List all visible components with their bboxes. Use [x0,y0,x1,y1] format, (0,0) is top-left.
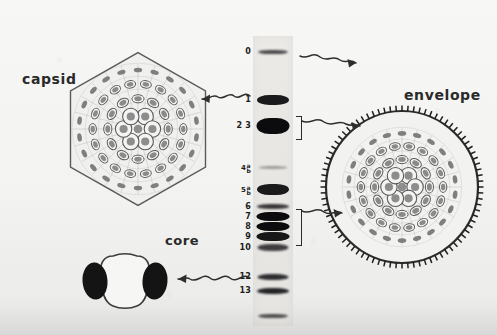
protein-band-lane [253,36,293,326]
arrowhead-envelope-top [348,59,357,68]
arrowhead-core [178,275,187,284]
core-capsule-outline [100,254,149,309]
enveloped-virion-diagram [316,101,488,273]
gel-band-label: 8 [231,222,251,231]
gel-band-label: 7 [231,212,251,221]
gel-band [259,166,288,169]
gel-band [258,50,288,54]
gel-band [258,314,288,318]
gel-band-label: 1 [231,95,251,104]
band-bracket [296,116,302,140]
gel-band-label: 2 3 [231,121,251,130]
gel-band-label: 12 [231,272,251,281]
virion-structure-figure: 012 34ab5ab6789101213 capsid envelope co… [0,0,497,335]
gel-band-label: 6 [231,202,251,211]
band-bracket [296,209,302,246]
gel-band [257,212,290,221]
gel-band [257,222,290,231]
gel-band [258,244,289,251]
label-capsid: capsid [22,71,77,87]
gel-band [257,118,290,134]
icosahedral-capsid-diagram [54,44,222,214]
gel-band [257,184,289,195]
gel-band-label: 10 [231,243,251,252]
arrow-envelope-top-path [300,55,356,63]
label-envelope: envelope [404,87,481,103]
viral-core-diagram [73,250,177,312]
gel-band-label: 0 [231,47,251,56]
gel-band-label: 4ab [231,163,251,174]
gel-band-label: 5ab [231,185,251,196]
gel-band-label: 13 [231,286,251,295]
gel-band-label: 9 [231,232,251,241]
gel-band [258,274,289,280]
gel-band [257,288,289,294]
label-core: core [165,233,199,248]
gel-band [257,95,289,105]
gel-band [257,204,289,209]
gel-band [257,232,290,241]
